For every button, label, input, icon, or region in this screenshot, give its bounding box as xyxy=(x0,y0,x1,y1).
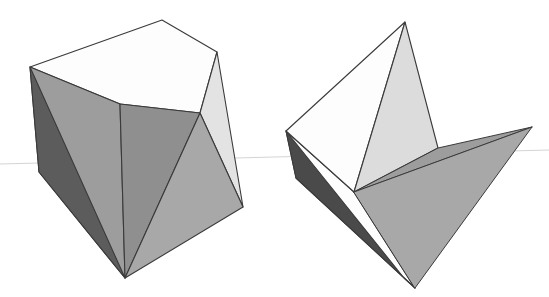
opened-polyhedron xyxy=(286,22,532,288)
polyhedra-canvas xyxy=(0,0,549,297)
closed-polyhedron xyxy=(30,20,243,278)
polyhedra-figure xyxy=(0,0,549,297)
